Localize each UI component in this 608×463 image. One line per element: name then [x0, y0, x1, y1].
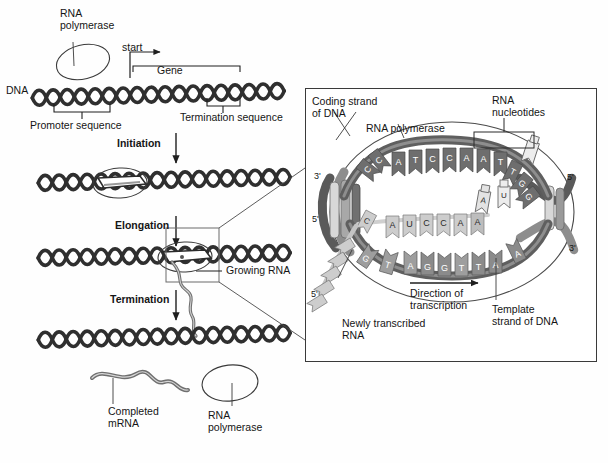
step-label-initiation: Initiation [117, 138, 161, 150]
svg-text:T: T [498, 157, 504, 167]
svg-text:C: C [429, 154, 436, 164]
svg-text:A: A [463, 153, 469, 163]
svg-text:C: C [440, 218, 447, 228]
end-label-left-top: 3' [314, 171, 321, 183]
label-growing-rna: Growing RNA [226, 265, 290, 277]
svg-text:G: G [424, 262, 431, 272]
svg-text:C: C [423, 218, 430, 228]
svg-text:A: A [492, 260, 498, 270]
end-label-right-bottom: 3' [569, 243, 576, 255]
svg-text:T: T [476, 262, 482, 272]
svg-text:A: A [480, 154, 486, 164]
svg-text:T: T [413, 155, 419, 165]
label-rna-nucleotides: RNA nucleotides [492, 95, 545, 118]
label-newly-transcribed-rna: Newly transcribed RNA [342, 318, 425, 341]
svg-text:A: A [389, 220, 395, 230]
label-template-strand: Template strand of DNA [492, 304, 558, 327]
end-label-left-bottom: 5' [312, 214, 319, 226]
label-start: start [122, 42, 142, 54]
svg-text:G: G [441, 263, 448, 273]
svg-text:U: U [406, 219, 413, 229]
label-coding-strand: Coding strand of DNA [312, 96, 377, 119]
newly-transcribed-rna-bases: C A U C C [357, 210, 488, 238]
svg-text:U: U [501, 191, 507, 200]
svg-text:A: A [474, 217, 480, 227]
transcription-figure: C C A T C [0, 0, 608, 463]
label-direction-of-transcription: Direction of transcription [410, 288, 467, 311]
label-promoter-sequence: Promoter sequence [30, 120, 122, 132]
svg-text:A: A [457, 218, 463, 228]
label-gene: Gene [157, 65, 183, 77]
label-rna-polymerase-bottom: RNA polymerase [208, 410, 262, 433]
step-label-elongation: Elongation [115, 220, 169, 232]
label-termination-sequence: Termination sequence [180, 112, 283, 124]
end-label-right-top: 5' [567, 172, 574, 184]
end-label-left-lower: 5' [311, 289, 318, 301]
svg-text:T: T [459, 263, 465, 273]
label-dna: DNA [6, 85, 28, 97]
label-rna-polymerase-top: RNA polymerase [60, 8, 114, 31]
svg-text:A: A [395, 157, 401, 167]
step-label-termination: Termination [110, 294, 169, 306]
label-completed-mrna: Completed mRNA [108, 406, 159, 429]
svg-text:A: A [407, 261, 413, 271]
svg-text:C: C [446, 153, 453, 163]
inset-artwork: C C A T C [0, 0, 608, 463]
label-rna-polymerase-inset: RNA polymerase [366, 123, 445, 135]
